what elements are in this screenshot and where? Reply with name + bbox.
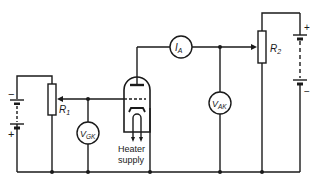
heater-label-line1: Heater: [118, 144, 145, 154]
grid-battery-minus: −: [8, 88, 14, 100]
heater-label-line2: supply: [118, 155, 145, 165]
r1-label: R1: [59, 104, 70, 116]
grid-voltmeter-vgk: VGK: [77, 99, 99, 174]
grid-potentiometer-r1: R1: [48, 84, 70, 174]
circuit-diagram: − + R1 VGK Heater su: [0, 0, 318, 184]
r1-wiper-arrow-icon: [57, 96, 63, 102]
anode-potentiometer-r2: R2: [258, 13, 300, 174]
triode-valve: Heater supply: [118, 47, 152, 174]
r2-wiper-arrow-icon: [251, 44, 257, 50]
heater-arrow-icon: [131, 137, 135, 142]
anode-battery: + −: [293, 13, 310, 172]
r2-label: R2: [270, 43, 281, 55]
anode-ammeter-ia: IA: [170, 36, 192, 58]
anode-battery-plus: +: [304, 22, 310, 33]
grid-battery-plus: +: [8, 128, 14, 140]
anode-battery-minus: −: [304, 86, 310, 97]
heater-arrow-icon: [139, 137, 143, 142]
anode-voltmeter-vak: VAK: [209, 47, 231, 174]
grid-battery: − +: [8, 76, 52, 172]
